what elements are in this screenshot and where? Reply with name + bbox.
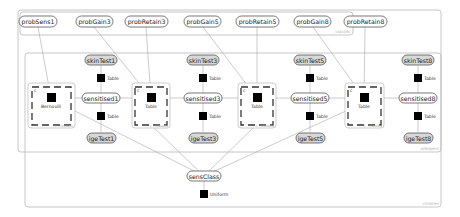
node-skinTest5[interactable]: skinTest5 [294, 55, 326, 65]
node-probGain5[interactable]: probGain5 [184, 16, 221, 27]
node-skinTest8[interactable]: skinTest8 [402, 55, 434, 65]
svg-text:probSens1: probSens1 [22, 18, 55, 26]
skin-factor-label: Table [106, 76, 119, 81]
ige-table-factor-icon [306, 112, 314, 120]
ige-table-factor-icon [414, 112, 422, 120]
children-frame [25, 53, 441, 207]
table-factor-icon [147, 93, 156, 102]
svg-text:igeTest8: igeTest8 [406, 135, 432, 143]
gate-1: c Bernoulli c : classes [28, 83, 75, 128]
gate-4: c Table c : classes [345, 83, 384, 128]
svg-text:c : classes: c : classes [150, 124, 169, 128]
svg-text:Table: Table [315, 114, 328, 119]
node-igeTest1[interactable]: igeTest1 [87, 133, 116, 143]
svg-text:sensitised8: sensitised8 [401, 95, 436, 102]
table-factor-icon [253, 93, 262, 102]
svg-text:probRetain3: probRetain3 [128, 18, 166, 26]
svg-text:sensClass: sensClass [189, 173, 219, 180]
svg-text:sensitised3: sensitised3 [186, 95, 221, 102]
svg-text:Table: Table [208, 76, 221, 81]
node-sensitised3[interactable]: sensitised3 [184, 93, 222, 103]
svg-text:skinTest1: skinTest1 [87, 57, 116, 64]
node-sensClass[interactable]: sensClass [187, 171, 221, 181]
node-probGain8[interactable]: probGain8 [294, 16, 331, 27]
svg-text:Table: Table [208, 114, 221, 119]
svg-text:skinTest3: skinTest3 [189, 57, 218, 64]
ige-table-factor-icon [97, 112, 105, 120]
svg-text:probGain5: probGain5 [186, 18, 218, 26]
node-sensitised1[interactable]: sensitised1 [82, 93, 120, 103]
skin-table-factor-icon [414, 74, 422, 82]
svg-text:sensitised5: sensitised5 [293, 95, 328, 102]
svg-text:Table: Table [250, 104, 263, 109]
svg-text:skinTest8: skinTest8 [404, 57, 433, 64]
svg-text:probGain3: probGain3 [78, 18, 110, 26]
svg-text:Bernoulli: Bernoulli [41, 104, 61, 109]
node-skinTest3[interactable]: skinTest3 [187, 55, 219, 65]
skin-table-factor-icon [199, 74, 207, 82]
svg-text:c : classes: c : classes [364, 124, 383, 128]
children-frame-label: children [423, 201, 440, 206]
svg-text:skinTest5: skinTest5 [296, 57, 325, 64]
uniform-factor-icon [200, 190, 208, 198]
classes-frame-label: classes [336, 29, 350, 34]
svg-text:igeTest1: igeTest1 [89, 135, 115, 143]
svg-text:probRetain8: probRetain8 [347, 18, 385, 26]
node-igeTest3[interactable]: igeTest3 [189, 133, 218, 143]
svg-text:igeTest5: igeTest5 [298, 135, 324, 143]
svg-text:igeTest3: igeTest3 [191, 135, 217, 143]
svg-text:c : classes: c : classes [256, 124, 275, 128]
skin-table-factor-icon [306, 74, 314, 82]
svg-text:Table: Table [423, 114, 436, 119]
svg-text:probGain8: probGain8 [296, 18, 328, 26]
uniform-factor-label: Uniform [210, 192, 229, 197]
ige-factor-label: Table [106, 114, 119, 119]
node-probRetain5[interactable]: probRetain5 [236, 16, 279, 27]
node-igeTest5[interactable]: igeTest5 [296, 133, 325, 143]
node-probRetain8[interactable]: probRetain8 [344, 16, 387, 27]
bernoulli-factor-icon [47, 93, 56, 102]
svg-text:Table: Table [144, 104, 157, 109]
node-igeTest8[interactable]: igeTest8 [404, 133, 433, 143]
svg-text:Table: Table [357, 104, 370, 109]
gate-3: c Table c : classes [238, 83, 276, 128]
node-sensitised8[interactable]: sensitised8 [399, 93, 437, 103]
ige-table-factor-icon [199, 112, 207, 120]
allergens-frame [18, 10, 441, 152]
node-probSens1[interactable]: probSens1 [19, 16, 57, 27]
svg-text:sensitised1: sensitised1 [84, 95, 119, 102]
table-factor-icon [360, 93, 369, 102]
skin-table-factor-icon [97, 74, 105, 82]
factor-graph-diagram: classes allergens children c [0, 0, 460, 217]
node-sensitised5[interactable]: sensitised5 [291, 93, 329, 103]
node-skinTest1[interactable]: skinTest1 [85, 55, 117, 65]
svg-text:Table: Table [423, 76, 436, 81]
svg-text:Table: Table [315, 76, 328, 81]
allergens-frame-label: allergens [421, 146, 439, 151]
gate-2: c Table c : classes [132, 83, 170, 128]
node-probGain3[interactable]: probGain3 [76, 16, 113, 27]
svg-text:probRetain5: probRetain5 [239, 18, 277, 26]
svg-text:c : classes: c : classes [55, 124, 74, 128]
node-probRetain3[interactable]: probRetain3 [125, 16, 168, 27]
